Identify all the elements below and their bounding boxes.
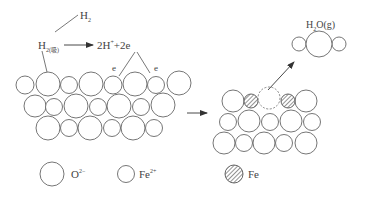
h2-pointer-line: [55, 15, 78, 32]
h2-adsorbed-pointer: [42, 51, 47, 72]
legend-fe-symbol: [225, 165, 243, 183]
water-gas-label: H2O(g): [306, 20, 335, 30]
legend-fe-label: Fe: [248, 169, 259, 180]
left-oxide-lattice: [16, 71, 191, 140]
electron-label-1: e: [112, 64, 116, 73]
right-oxide-lattice: [213, 90, 321, 154]
h2-adsorbed-label: H2(吸): [38, 40, 59, 51]
legend-o2-symbol: [40, 162, 64, 186]
oxygen-vacancy: [258, 87, 280, 109]
reaction-product-label: 2H++2e: [97, 40, 130, 51]
legend-o2-label: O2−: [71, 169, 85, 180]
fe-atom: [281, 94, 295, 108]
electron-label-2: e: [154, 64, 158, 73]
legend-fe2-symbol: [118, 166, 135, 183]
electron-pointer-2: [137, 52, 150, 73]
legend-fe2-label: Fe2+: [139, 169, 156, 180]
h2-gas-label: H2: [80, 10, 91, 21]
water-release-arrow: [268, 62, 294, 90]
fe-atom: [244, 94, 258, 108]
water-molecule: [292, 31, 346, 57]
